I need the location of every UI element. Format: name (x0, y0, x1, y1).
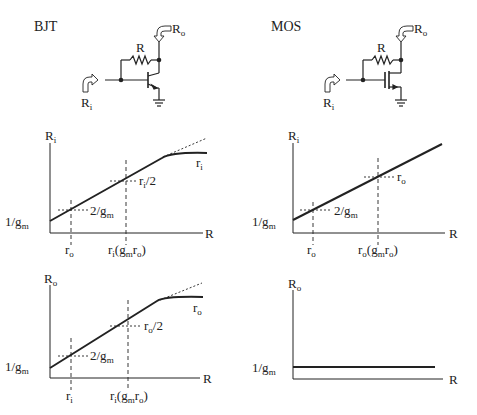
output-arrow-icon (396, 26, 413, 42)
input-arrow-icon (83, 74, 98, 92)
y0-label: 1/gm (252, 214, 276, 231)
axes (293, 143, 445, 233)
mark2-label: ri/2 (139, 173, 156, 190)
x2-label: ri(gmro) (108, 242, 146, 259)
mark2-label: ro/2 (144, 318, 163, 335)
y-axis-label: Ro (288, 276, 302, 293)
mos-ri-plot: Ri R 1/gm 2/gm ro ro ro(gmro) (252, 128, 458, 259)
mark1-label: 2/gm (90, 348, 114, 365)
axes (50, 285, 200, 378)
source-arrow-icon (393, 85, 397, 89)
resistor-icon (130, 56, 151, 64)
x1-label: ro (65, 242, 74, 259)
ri-curve (50, 153, 207, 221)
bjt-resistor-label: R (136, 40, 145, 55)
bjt-ro-plot: Ro R 1/gm 2/gm ro/2 ro ri ri(gmro) (5, 271, 212, 405)
bjt-ri-plot: Ri R 1/gm 2/gm ri/2 ri ro ri(gmro) (5, 128, 214, 259)
y-axis-label: Ri (45, 128, 57, 145)
bjt-input-label: Ri (81, 95, 93, 112)
ro-curve (50, 297, 203, 368)
x1-label: ri (66, 388, 73, 405)
mos-input-label: Ri (323, 95, 335, 112)
junction-dot (361, 78, 366, 83)
asymptote-label: ro (193, 300, 202, 317)
resistor-icon (372, 56, 393, 64)
y-axis-label: Ri (288, 128, 300, 145)
junction-dot (157, 58, 162, 63)
ri-line (293, 144, 442, 220)
y0-label: 1/gm (5, 359, 29, 376)
mos-title: MOS (271, 19, 301, 34)
mos-output-label: Ro (414, 21, 428, 38)
bjt-circuit (105, 42, 165, 106)
x-axis-label: R (449, 372, 458, 387)
bjt-title: BJT (34, 19, 58, 34)
x1-label: ro (307, 242, 316, 259)
x2-label: ri(gmro) (110, 388, 148, 405)
axes (50, 143, 203, 233)
junction-dot (119, 78, 124, 83)
output-arrow-icon (154, 26, 171, 42)
y-axis-label: Ro (44, 271, 58, 288)
emitter-arrow-icon (152, 85, 157, 89)
y0-label: 1/gm (252, 360, 276, 377)
mark1-label: 2/gm (334, 203, 358, 220)
ground-icon (395, 100, 407, 106)
x-axis-label: R (449, 226, 458, 241)
mark1-label: 2/gm (90, 203, 114, 220)
mark2-label: ro (397, 169, 406, 186)
axes (293, 290, 443, 379)
input-arrow-icon (325, 74, 340, 92)
y0-label: 1/gm (5, 214, 29, 231)
bjt-output-label: Ro (172, 21, 186, 38)
junction-dot (399, 58, 404, 63)
x-axis-label: R (205, 226, 214, 241)
x-axis-label: R (203, 371, 212, 386)
ground-icon (153, 100, 165, 106)
mos-resistor-label: R (377, 40, 386, 55)
mos-ro-plot: Ro R 1/gm (252, 276, 458, 387)
diagram-canvas: BJT R Ri Ro (0, 0, 477, 415)
asymptote-label: ri (196, 155, 203, 172)
